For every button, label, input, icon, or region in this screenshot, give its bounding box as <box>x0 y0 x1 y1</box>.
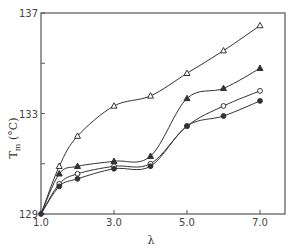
chart: 1.03.05.07.0 129133137 λ Tm (°C) <box>0 0 292 249</box>
data-point-circle <box>258 99 263 104</box>
data-point-circle <box>185 124 190 129</box>
data-point-triangle <box>257 65 263 70</box>
data-point-circle <box>221 104 226 109</box>
series-line <box>41 26 260 214</box>
svg-text:Tm (°C): Tm (°C) <box>7 118 22 159</box>
x-tick-label: 7.0 <box>252 217 268 228</box>
data-point-triangle <box>184 70 190 75</box>
data-point-circle <box>112 166 117 171</box>
x-axis-title: λ <box>148 234 155 247</box>
y-axis-title: Tm (°C) <box>7 118 22 159</box>
y-tick-label: 133 <box>19 109 38 120</box>
data-point-circle <box>258 88 263 93</box>
series-triangle-open <box>41 22 263 214</box>
data-point-circle <box>57 184 62 189</box>
y-tick-label: 129 <box>19 209 38 220</box>
origin-point <box>39 212 44 217</box>
x-tick-label: 3.0 <box>106 217 122 228</box>
data-point-circle <box>75 171 80 176</box>
data-point-circle <box>75 176 80 181</box>
data-point-triangle <box>56 163 62 168</box>
data-point-triangle <box>221 47 227 52</box>
data-point-circle <box>221 114 226 119</box>
y-axis-title-unit: (°C) <box>7 118 20 141</box>
series-circle-open <box>41 88 262 214</box>
plot-frame <box>41 13 285 214</box>
x-tick-label: 5.0 <box>179 217 195 228</box>
data-point-circle <box>148 164 153 169</box>
data-point-triangle <box>257 22 263 27</box>
series-layer <box>39 22 263 216</box>
x-axis-ticks: 1.03.05.07.0 <box>33 210 268 228</box>
y-tick-label: 137 <box>19 8 38 19</box>
